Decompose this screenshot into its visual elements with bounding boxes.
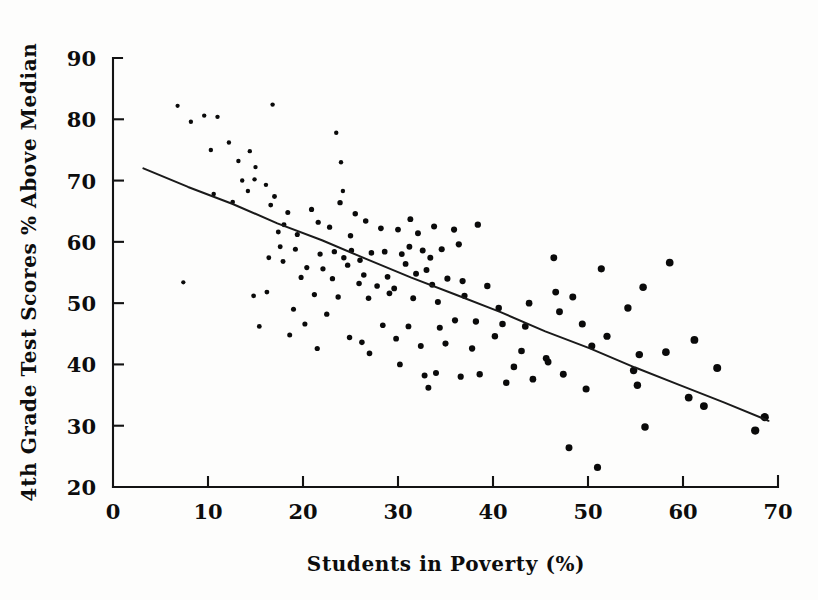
scatter-point (499, 321, 506, 328)
scatter-point (569, 294, 576, 301)
y-axis-tick-labels: 2030405060708090 (67, 46, 96, 500)
x-tick-label: 40 (478, 499, 507, 524)
scatter-point (335, 294, 340, 299)
scatter-point (315, 346, 320, 351)
scatter-point (374, 283, 380, 289)
scatter-point (415, 230, 421, 236)
scatter-point (356, 281, 362, 287)
scatter-point (330, 276, 335, 281)
scatter-point (422, 372, 428, 378)
scatter-point (459, 278, 465, 284)
scatter-point (598, 265, 605, 272)
scatter-point (264, 290, 269, 295)
scatter-point (295, 232, 300, 237)
x-tick-label: 20 (288, 499, 317, 524)
scatter-point (353, 211, 358, 216)
scatter-point (324, 312, 329, 317)
scatter-point (337, 200, 342, 205)
x-axis-label: Students in Poverty (%) (307, 552, 585, 576)
scatter-point (492, 333, 498, 339)
scatter-point (545, 359, 552, 366)
scatter-point (320, 266, 325, 271)
scatter-point (451, 227, 457, 233)
scatter-point (366, 295, 372, 301)
scatter-point (251, 293, 256, 298)
scatter-point (361, 272, 367, 278)
scatter-point (341, 255, 346, 260)
scatter-point (252, 177, 256, 181)
scatter-point (636, 351, 643, 358)
scatter-point (424, 267, 430, 273)
scatter-point (327, 225, 332, 230)
x-tick-label: 70 (763, 499, 792, 524)
scatter-point (397, 362, 403, 368)
scatter-point (427, 255, 433, 261)
x-tick-label: 0 (106, 499, 121, 524)
scatter-point (475, 222, 481, 228)
y-axis-line (113, 58, 122, 487)
scatter-point (456, 241, 462, 247)
scatter-point (359, 340, 365, 346)
scatter-point (266, 255, 271, 260)
scatter-point (215, 115, 219, 119)
scatter-point (700, 402, 708, 410)
y-tick-label: 50 (67, 291, 96, 316)
scatter-point (550, 254, 557, 261)
scatter-point (511, 364, 518, 371)
scatter-point (484, 283, 490, 289)
scatter-point (603, 333, 610, 340)
scatter-point (439, 246, 445, 252)
scatter-point (410, 295, 416, 301)
scatter-point (270, 102, 274, 106)
scatter-point (639, 283, 646, 290)
scatter-point (385, 274, 391, 280)
scatter-point (382, 249, 388, 255)
scatter-points-layer (175, 102, 768, 471)
y-tick-label: 90 (67, 46, 96, 71)
scatter-point (316, 220, 321, 225)
scatter-point (293, 247, 298, 252)
scatter-point (347, 335, 352, 340)
y-tick-label: 30 (67, 414, 96, 439)
scatter-point (406, 324, 412, 330)
scatter-point (431, 224, 437, 230)
y-tick-label: 70 (67, 169, 96, 194)
scatter-point (348, 233, 353, 238)
y-tick-label: 40 (67, 352, 96, 377)
scatter-plot-figure: 2030405060708090 010203040506070 Student… (0, 0, 818, 600)
scatter-point (236, 159, 240, 163)
scatter-point (556, 308, 563, 315)
scatter-point (264, 183, 268, 187)
scatter-point (594, 464, 601, 471)
scatter-point (339, 160, 343, 164)
scatter-point (309, 207, 314, 212)
scatter-point (641, 423, 648, 430)
scatter-point (367, 351, 373, 357)
scatter-point (666, 259, 674, 267)
scatter-point (189, 120, 193, 124)
scatter-point (345, 262, 350, 267)
scatter-point (473, 318, 479, 324)
y-tick-label: 80 (67, 107, 96, 132)
scatter-point (425, 385, 431, 391)
scatter-point (418, 343, 424, 349)
scatter-point (413, 271, 419, 277)
scatter-point (278, 244, 283, 249)
x-tick-label: 30 (383, 499, 412, 524)
scatter-point (403, 261, 409, 267)
scatter-point (332, 249, 337, 254)
scatter-point (406, 244, 412, 250)
scatter-point (304, 265, 309, 270)
scatter-point (552, 289, 559, 296)
scatter-point (302, 321, 307, 326)
scatter-point (560, 371, 567, 378)
y-tick-label: 20 (67, 475, 96, 500)
scatter-point (444, 276, 450, 282)
scatter-point (442, 341, 448, 347)
scatter-point (530, 376, 537, 383)
scatter-point (357, 257, 363, 263)
y-axis-ticks (113, 119, 124, 425)
scatter-point (281, 259, 286, 264)
scatter-point (378, 226, 384, 232)
scatter-point (317, 251, 322, 256)
